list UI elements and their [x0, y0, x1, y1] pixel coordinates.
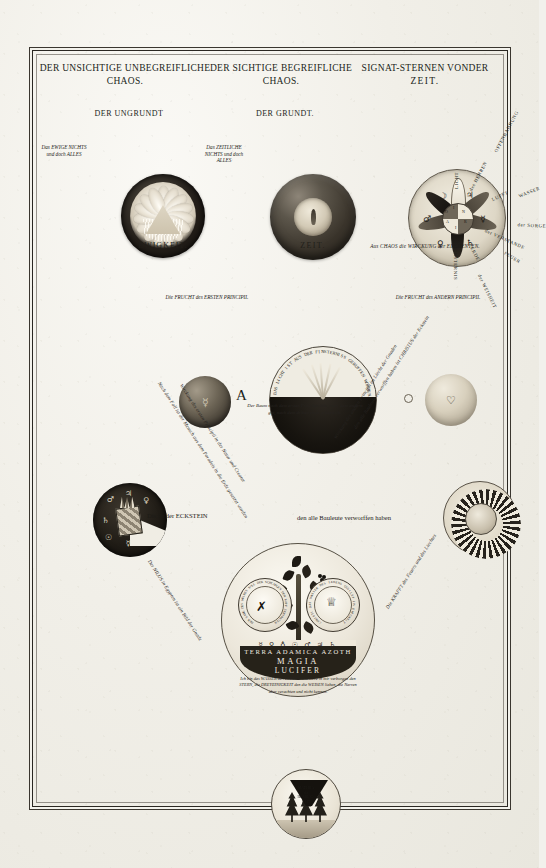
fruit-right-label: Die FRUCHT des ANDERN PRINCIPII.: [389, 294, 487, 301]
header-right-line2: ZEIT.: [345, 76, 505, 88]
header-middle-line1: DER SICHTIGE BEGREIFLICHE: [201, 63, 361, 75]
orb-arc-char: R: [309, 350, 313, 356]
moon-sigil-icon: ☽: [439, 191, 447, 201]
serpent-icon: ✗: [256, 599, 267, 615]
grundt-core: [294, 198, 332, 236]
marker-letter-a: A: [236, 387, 247, 404]
ungrundt-side-note: Das EWIGE NICHTS und doch ALLES: [38, 144, 90, 157]
bottom-disc-label: MATERIA der HERRLIG- KEIT: [272, 786, 340, 805]
jupiter-sigil-icon-2: ♃: [125, 489, 132, 498]
orb-arc-char: I: [318, 349, 320, 354]
chalice-icon: ♕: [326, 595, 337, 610]
band-line-lucifer: LUCIFER: [240, 666, 356, 675]
materia-herrligkeit-disc: MATERIA der HERRLIG- KEIT: [271, 769, 341, 839]
ungrundt-caption: EWIGKEIT.: [93, 241, 233, 251]
eckstein-text-left: Dis ist der ECKSTEIN: [147, 512, 208, 519]
orb-arc-char: N: [367, 393, 372, 397]
mercury-sigil-icon: ☿: [480, 214, 486, 224]
terra-adamica-globe: ✗ ♕ DER SAME DES WEIBES SOLL DER SCHLANG…: [221, 543, 375, 697]
header-middle-line2: CHAOS.: [201, 76, 361, 88]
crown-icon: [120, 497, 136, 508]
grundt-seed-icon: [311, 209, 316, 225]
medallion-ring-char: F: [284, 605, 288, 607]
radial-label-licht: LICHT: [454, 172, 459, 189]
marker-circle-o: [404, 394, 413, 403]
starrose-caption: Aus CHAOS die WIRCKUNG der ELEMENTEN.: [345, 243, 505, 250]
venus-sigil-icon-2: ♀: [143, 496, 149, 505]
bottom-ground: [272, 820, 340, 838]
medallion-ring-char: N: [352, 603, 356, 606]
fruit-left-label: Die FRUCHT des ERSTEN PRINCIPII.: [161, 294, 253, 301]
globe-inscription: Ich bin das WASSER des LEBENS und habe i…: [239, 676, 357, 695]
tree-trunk: [296, 574, 301, 646]
tree-leaf: [282, 569, 294, 582]
mars-sigil-icon-2: ♂: [107, 495, 114, 504]
medallion-ring-char: S: [240, 603, 244, 605]
tree-leaf: [300, 564, 313, 578]
tree-leaf: [292, 556, 301, 567]
radiant-sun-disc: [443, 481, 517, 555]
sun-sigil-icon: ☉: [105, 533, 112, 542]
mercury-sigil-icon-2: ☿: [126, 539, 131, 548]
sun-core: [465, 503, 497, 535]
header-left-line1: DER UNSICHTIGE UNBEGREIFLICHE: [35, 63, 215, 75]
header-left-line2: CHAOS.: [35, 76, 215, 88]
eckstein-disc: ♂ ♃ ♀ ♄ ☉ ☿: [93, 483, 167, 557]
medallion-ring-char: R: [261, 580, 264, 584]
engraving-plate-border: DER UNSICHTIGE UNBEGREIFLICHE CHAOS. DER…: [32, 50, 508, 807]
mars-sigil-icon: ♂: [423, 214, 431, 224]
medallion-ring-char: A: [308, 603, 312, 606]
ungrundt-title: DER UNGRUNDT: [59, 109, 199, 119]
orb-arc-char: S: [342, 354, 347, 360]
fruit-right-sigil-icon: ♡: [444, 392, 458, 408]
cornerstone-icon: [115, 505, 143, 536]
radial-label-finsternis: FINSTERNIS: [453, 247, 458, 280]
grundt-side-note: Das ZEITLICHE NICHTS und doch ALLES: [197, 144, 251, 164]
header-right-line1: SIGNAT-STERNEN VONDER: [345, 63, 505, 75]
terra-adamica-band: ☿ ♀ ♁ ☉ ♂ ♃ ♄ TERRA ADAMICA AZOTH MAGIA …: [240, 640, 356, 680]
bottom-label-line4: KEIT: [272, 800, 340, 805]
eckstein-text-right: den alle Bauleute verworffen haben: [297, 514, 391, 521]
band-line-terra: TERRA ADAMICA AZOTH: [240, 648, 356, 655]
star-rose-hub-letters: I N R I A O: [444, 205, 470, 231]
orb-arc-char: N: [360, 373, 366, 379]
fruit-left-sigil-icon: ☿: [198, 394, 212, 410]
band-line-magia: MAGIA: [240, 656, 356, 666]
grundt-title: DER GRUNDT.: [215, 109, 355, 119]
saturn-sigil-icon-2: ♄: [102, 516, 109, 525]
medallion-ring-char: S: [308, 602, 312, 604]
fruit-sphere-right: ♡: [425, 374, 477, 426]
